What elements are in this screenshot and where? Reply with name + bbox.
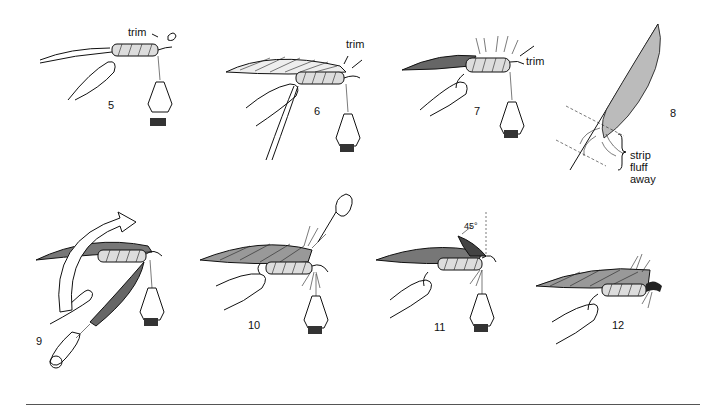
step-7-number: 7 xyxy=(474,106,480,117)
step-8-number: 8 xyxy=(670,108,676,119)
step-5-trim-label: trim xyxy=(128,27,146,38)
bottom-divider xyxy=(26,404,700,405)
step-7-illustration xyxy=(400,0,540,150)
step-10-panel: 10 xyxy=(200,180,370,360)
step-12-number: 12 xyxy=(612,320,624,331)
step-10-number: 10 xyxy=(248,320,260,331)
step-6-panel: trim 6 xyxy=(210,0,400,170)
step-9-number: 9 xyxy=(36,336,42,347)
step-8-panel: 8 strip fluff away xyxy=(540,10,709,180)
step-11-number: 11 xyxy=(434,322,445,333)
step-8-illustration xyxy=(540,10,709,180)
step-5-panel: trim 5 xyxy=(30,0,210,150)
step-11-panel: 45° 11 xyxy=(370,200,530,360)
step-9-panel: 9 xyxy=(20,200,200,370)
step-7-panel: trim 7 xyxy=(400,0,540,150)
step-8-away-label: away xyxy=(630,174,656,185)
step-12-panel: 12 xyxy=(530,240,709,360)
step-11-illustration xyxy=(370,200,530,360)
step-8-strip-label: strip xyxy=(630,150,651,161)
step-6-number: 6 xyxy=(314,106,320,117)
step-11-angle-label: 45° xyxy=(464,222,478,231)
step-6-illustration xyxy=(210,0,400,170)
step-5-number: 5 xyxy=(108,100,114,111)
step-10-illustration xyxy=(200,180,370,360)
step-12-illustration xyxy=(530,240,709,360)
step-6-trim-label: trim xyxy=(346,39,364,50)
step-5-illustration xyxy=(30,0,210,150)
step-8-fluff-label: fluff xyxy=(630,162,648,173)
step-9-illustration xyxy=(20,200,200,370)
